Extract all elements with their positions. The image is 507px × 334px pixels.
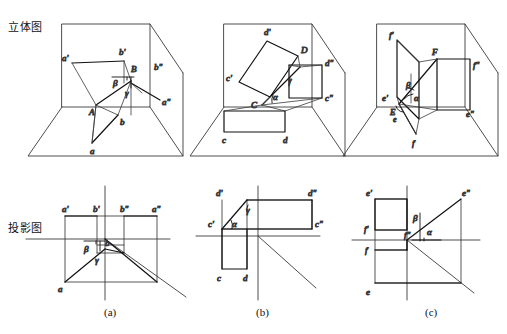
projection-box-a: [28, 24, 183, 156]
label-beta-proj-a: β: [83, 244, 89, 254]
label-b-dprime-solid-a: b": [154, 62, 163, 72]
label-e-prime-solid-c: e': [382, 93, 389, 103]
label-gamma-solid-a: γ: [125, 88, 129, 98]
label-F-solid-c: F: [431, 47, 438, 57]
label-beta-proj-c: β: [412, 213, 418, 223]
label-c-dprime-solid-b: c": [325, 93, 333, 103]
label-alpha-proj-c: α: [427, 227, 432, 237]
construction-lines-b: [224, 56, 322, 111]
label-b-proj-a: b: [105, 238, 110, 248]
label-f-proj-c: f: [365, 245, 369, 255]
projection-view-c: e' e" f' f" f e α β: [352, 186, 480, 300]
label-A-solid-a: A: [88, 107, 95, 117]
projection-box-c: [343, 24, 498, 156]
label-b-dprime-proj-a: b": [120, 204, 129, 214]
label-c-proj-b: c: [217, 273, 221, 283]
label-a-solid-a: a: [90, 146, 95, 156]
label-f-dprime-proj-c: f": [404, 230, 411, 240]
label-alpha-proj-b: α: [232, 219, 237, 229]
solid-view-c: f' F f" e' E e e" f α β: [343, 24, 498, 156]
label-a-prime-proj-a: a': [62, 204, 70, 214]
label-b-prime-proj-a: b': [93, 204, 101, 214]
label-c-dprime-proj-b: c": [315, 219, 323, 229]
label-d-dprime-proj-b: d": [308, 188, 317, 198]
label-f-prime-proj-c: f': [364, 224, 370, 234]
label-d-dprime-solid-b: d": [325, 58, 334, 68]
label-B-solid-a: B: [131, 64, 137, 74]
label-d-prime-solid-b: d': [264, 27, 272, 37]
label-a-proj-a: a: [58, 284, 63, 294]
label-e-prime-proj-c: e': [366, 188, 373, 198]
line-ab-projections: [72, 61, 160, 143]
label-c-prime-proj-b: c': [208, 219, 215, 229]
line-ef-proj-c: [375, 199, 461, 283]
label-gamma-solid-b: γ: [288, 75, 292, 85]
label-e-low-solid-c: e: [393, 115, 397, 124]
label-gamma-proj-b: γ: [246, 205, 250, 215]
axes-b: [196, 186, 320, 300]
label-f-prime-solid-c: f': [389, 30, 395, 40]
line-ab-proj-a: [65, 216, 157, 282]
label-c-prime-solid-b: c': [226, 73, 233, 83]
label-D-solid-b: D: [300, 45, 308, 55]
label-a-prime-solid-a: a': [62, 53, 70, 63]
projection-view-a: a' b' b" a" b a β γ: [26, 186, 186, 300]
plane-cd-proj-b: [222, 200, 312, 269]
label-d-solid-b: d: [283, 135, 288, 145]
label-b-solid-a: b: [120, 117, 125, 127]
label-f-dprime-solid-c: f": [473, 60, 480, 70]
label-e-dprime-solid-c: e": [466, 109, 474, 119]
label-a-dprime-proj-a: a": [152, 204, 161, 214]
label-beta-solid-c: β: [405, 80, 411, 90]
label-beta-solid-a: β: [112, 78, 118, 88]
construction-lines-c: [397, 40, 437, 134]
construction-lines-proj-a: [65, 216, 157, 282]
label-c-solid-b: c: [222, 135, 226, 145]
construction-lines-proj-b: [222, 200, 312, 269]
label-d-proj-b: d: [243, 273, 248, 283]
figure-canvas: 立体图 投影图 (a) (b) (c): [0, 0, 507, 334]
label-gamma-proj-a: γ: [95, 255, 99, 265]
label-e-dprime-proj-c: e": [462, 188, 470, 198]
construction-lines-proj-c: [375, 199, 461, 283]
label-d-prime-proj-b: d': [216, 188, 224, 198]
label-e-proj-c: e: [366, 287, 370, 297]
label-alpha-solid-c: α: [414, 93, 419, 103]
label-a-dprime-solid-a: a": [162, 97, 171, 107]
solid-view-b: d' D d" c' C c" c d α γ: [190, 24, 345, 156]
label-C-solid-b: C: [251, 100, 258, 110]
label-b-prime-solid-a: b': [119, 47, 127, 57]
figure-svg: a' b' b" a" A B b a β γ: [0, 0, 507, 334]
label-alpha-solid-b: α: [273, 92, 278, 102]
label-f-solid-c: f: [412, 138, 416, 148]
solid-view-a: a' b' b" a" A B b a β γ: [28, 24, 183, 156]
projection-view-b: d' d" c' c" c d α γ: [196, 186, 323, 300]
